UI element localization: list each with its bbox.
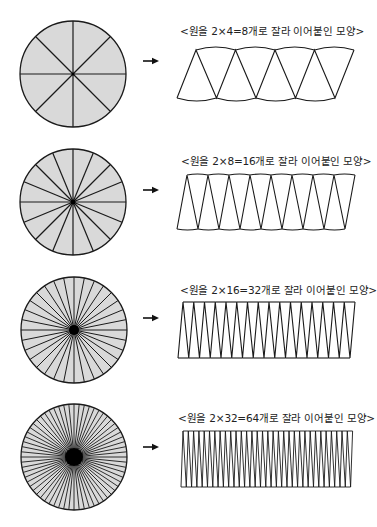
row-label: <원을 2×32=64개로 잘라 이어붙인 모양> bbox=[178, 410, 375, 425]
